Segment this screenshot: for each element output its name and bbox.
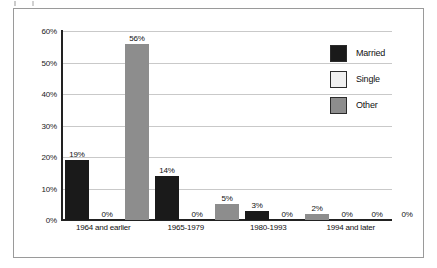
- bar-slot: 2%: [305, 31, 329, 220]
- x-tick-label: 1994 and later: [310, 223, 393, 232]
- legend-item-single[interactable]: Single: [330, 67, 422, 91]
- bar-other[interactable]: 2%: [305, 214, 329, 220]
- y-tick-label: 40%: [42, 90, 57, 99]
- bar-value-label: 56%: [129, 34, 144, 43]
- chart-legend: Married Single Other: [330, 41, 422, 119]
- bar-slot: 0%: [185, 31, 209, 220]
- bar-slot: 14%: [155, 31, 179, 220]
- bar-value-label: 14%: [159, 166, 174, 175]
- y-axis-ticks: 60% 50% 40% 30% 20% 10% 0%: [14, 31, 57, 220]
- x-tick-label: 1965-1979: [145, 223, 228, 232]
- legend-item-other[interactable]: Other: [330, 93, 422, 117]
- bar-slot: 0%: [95, 31, 119, 220]
- bar-value-label: 0%: [101, 210, 112, 219]
- bar-group: 14% 0% 5%: [152, 31, 242, 220]
- x-axis-labels: 1964 and earlier 1965-1979 1980-1993 199…: [62, 223, 392, 232]
- y-tick-label: 10%: [42, 184, 57, 193]
- y-tick-label: 30%: [42, 121, 57, 130]
- bar-slot: 5%: [215, 31, 239, 220]
- bar-slot: 56%: [125, 31, 149, 220]
- y-tick-label: 0%: [46, 216, 57, 225]
- bar-married[interactable]: 3%: [245, 211, 269, 220]
- y-tick-label: 60%: [42, 27, 57, 36]
- bar-married[interactable]: 19%: [65, 160, 89, 220]
- x-tick-label: 1964 and earlier: [62, 223, 145, 232]
- x-tick-label: 1980-1993: [227, 223, 310, 232]
- bar-value-label: 0%: [371, 210, 382, 219]
- bar-value-label: 5%: [221, 194, 232, 203]
- bar-value-label: 0%: [401, 210, 412, 219]
- y-tick-label: 20%: [42, 153, 57, 162]
- bar-group: 19% 0% 56%: [62, 31, 152, 220]
- bar-slot: 0%: [275, 31, 299, 220]
- y-tick-label: 50%: [42, 58, 57, 67]
- bar-value-label: 19%: [69, 150, 84, 159]
- legend-label: Other: [356, 100, 378, 110]
- bar-married[interactable]: 14%: [155, 176, 179, 220]
- bar-other[interactable]: 5%: [215, 204, 239, 220]
- bar-value-label: 2%: [311, 204, 322, 213]
- bar-slot: 19%: [65, 31, 89, 220]
- legend-swatch-single-icon: [330, 71, 347, 88]
- grouped-bar-chart: 60% 50% 40% 30% 20% 10% 0% 19%: [14, 9, 423, 257]
- bar-value-label: 3%: [251, 201, 262, 210]
- legend-swatch-other-icon: [330, 97, 347, 114]
- legend-label: Married: [356, 48, 385, 58]
- legend-swatch-married-icon: [330, 45, 347, 62]
- chart-screenshot: 60% 50% 40% 30% 20% 10% 0% 19%: [0, 0, 437, 268]
- legend-item-married[interactable]: Married: [330, 41, 422, 65]
- chart-frame: 60% 50% 40% 30% 20% 10% 0% 19%: [13, 8, 424, 258]
- bar-value-label: 0%: [341, 210, 352, 219]
- bar-value-label: 0%: [191, 210, 202, 219]
- bar-group: 3% 0% 2%: [242, 31, 332, 220]
- legend-label: Single: [356, 74, 380, 84]
- bar-slot: 3%: [245, 31, 269, 220]
- scan-artifact: [14, 1, 74, 6]
- bar-value-label: 0%: [281, 210, 292, 219]
- bar-other[interactable]: 56%: [125, 44, 149, 220]
